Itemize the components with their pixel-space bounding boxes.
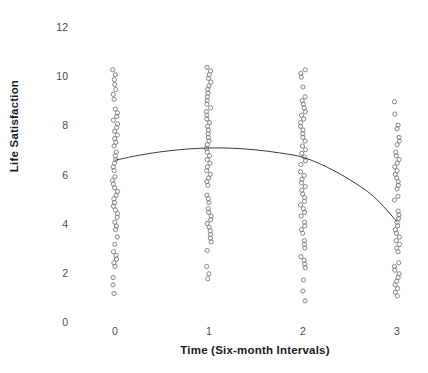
scatter-point [299,162,303,166]
scatter-point [299,255,303,259]
scatter-point [115,235,119,239]
y-tick-label: 12 [38,21,68,33]
scatter-point [111,68,115,72]
quadratic-trend-line [115,148,397,222]
scatter-point [112,291,116,295]
scatter-point [299,214,303,218]
scatter-point [112,97,116,101]
scatter-point [300,144,304,148]
scatter-point [207,272,211,276]
scatter-point [298,170,302,174]
scatter-point [111,118,115,122]
scatter-point [303,139,307,143]
scatter-point [395,187,399,191]
scatter-point [113,73,117,77]
x-tick-label: 1 [194,325,224,337]
scatter-point [301,231,305,235]
scatter-point [205,264,209,268]
scatter-point [301,289,305,293]
scatter-point [205,157,209,161]
scatter-point [392,100,396,104]
scatter-point [301,85,305,89]
scatter-point [302,117,306,121]
x-tick-label: 3 [382,325,412,337]
scatter-point [395,143,399,147]
scatter-point [209,106,213,110]
scatter-point [298,203,302,207]
scatter-point [303,299,307,303]
scatter-point [111,92,115,96]
scatter-point [111,275,115,279]
y-axis-title: Life Satisfaction [8,66,20,186]
scatter-point [205,65,209,69]
scatter-point [397,261,401,265]
scatter-point [112,144,116,148]
scatter-point [113,242,117,246]
scatter-point [392,198,396,202]
scatter-point [394,239,398,243]
x-tick-label: 0 [100,325,130,337]
y-tick-label: 6 [38,169,68,181]
y-tick-label: 4 [38,218,68,230]
scatter-point [303,184,307,188]
scatter-point [303,210,307,214]
scatter-point [396,194,400,198]
y-tick-label: 10 [38,70,68,82]
trend-curve-layer [115,148,397,222]
scatter-point [303,95,307,99]
scatter-point [303,68,307,72]
y-tick-label: 0 [38,316,68,328]
y-tick-label: 8 [38,119,68,131]
scatter-points-layer [110,65,401,303]
scatter-point [112,186,116,190]
scatter-point [113,82,117,86]
scatter-point [303,148,307,152]
scatter-point [395,294,399,298]
x-axis-title: Time (Six-month Intervals) [90,344,420,356]
scatter-point [114,87,118,91]
scatter-point [112,78,116,82]
scatter-point [301,278,305,282]
x-tick-label: 2 [288,325,318,337]
scatter-point [111,283,115,287]
scatter-point [397,235,401,239]
y-tick-label: 2 [38,267,68,279]
scatter-point [205,248,209,252]
chart-figure: Life Satisfaction Time (Six-month Interv… [0,0,428,373]
scatter-point [393,112,397,116]
scatter-point [206,277,210,281]
